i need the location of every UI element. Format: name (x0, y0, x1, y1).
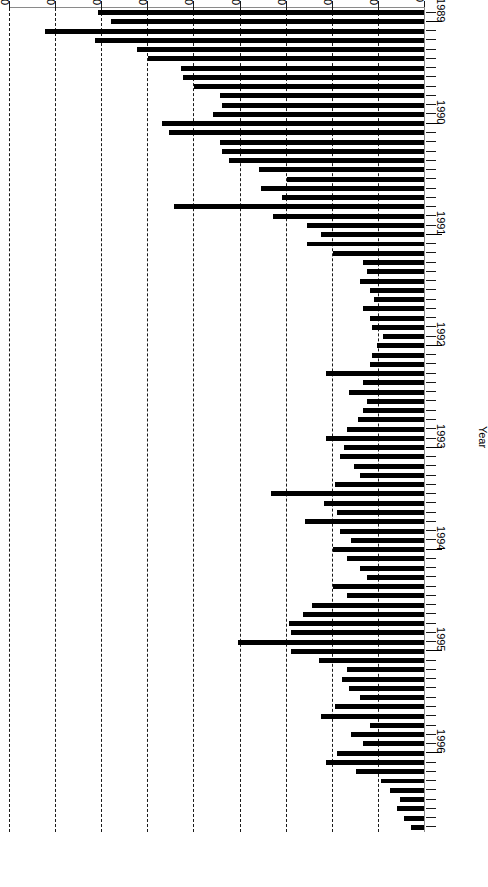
bar (347, 593, 425, 598)
year-label-1992: 1992 (435, 306, 446, 346)
bar (271, 492, 425, 497)
bar (319, 658, 425, 663)
category-tick (426, 289, 436, 290)
gridline-60 (147, 8, 148, 832)
bar (307, 223, 425, 228)
value-tick-label-30: 30 (276, 0, 287, 19)
bar (95, 38, 425, 43)
bar (213, 112, 425, 117)
category-tick (426, 484, 436, 485)
category-tick (426, 188, 436, 189)
category-tick (426, 151, 436, 152)
category-tick (426, 762, 436, 763)
value-tick-label-20: 20 (322, 0, 333, 19)
bar (363, 380, 425, 385)
bar (400, 797, 425, 802)
category-tick (426, 76, 436, 77)
bar (377, 343, 425, 348)
bar (162, 121, 425, 126)
bar (326, 760, 425, 765)
bar (358, 417, 425, 422)
bar (148, 56, 425, 61)
year-label-1989: 1989 (435, 0, 446, 22)
bar (351, 538, 425, 543)
bar (333, 584, 425, 589)
bar (194, 84, 425, 89)
bar (349, 686, 425, 691)
category-tick (426, 160, 436, 161)
chart-rotation-wrapper: 0102030405060708090 % Positive flocks 19… (0, 0, 488, 887)
gridline-90 (9, 8, 10, 832)
bar (349, 390, 425, 395)
year-label-1993: 1993 (435, 408, 446, 448)
category-tick (426, 697, 436, 698)
bar (404, 816, 425, 821)
category-tick (426, 567, 436, 568)
bar (372, 325, 425, 330)
bar (363, 741, 425, 746)
bar (354, 464, 425, 469)
value-tick-label-80: 80 (45, 0, 56, 19)
bar (397, 806, 425, 811)
category-tick (426, 586, 436, 587)
bar (370, 723, 425, 728)
bar (181, 66, 425, 71)
value-tick-label-70: 70 (91, 0, 102, 19)
bar-chart-figure: 0102030405060708090 % Positive flocks 19… (0, 0, 488, 887)
category-tick (426, 299, 436, 300)
bar (370, 288, 425, 293)
bar (372, 353, 425, 358)
value-tick-label-90: 90 (0, 0, 10, 19)
bar (111, 19, 425, 24)
category-tick (426, 456, 436, 457)
bar (340, 529, 425, 534)
bar (411, 825, 425, 830)
category-tick (426, 493, 436, 494)
category-tick (426, 354, 436, 355)
category-tick (426, 771, 436, 772)
bar (220, 93, 425, 98)
bar (381, 779, 425, 784)
bar (222, 103, 425, 108)
category-tick (426, 363, 436, 364)
category-tick (426, 604, 436, 605)
year-label-1996: 1996 (435, 714, 446, 754)
year-label-1990: 1990 (435, 84, 446, 124)
category-tick (426, 132, 436, 133)
bar (137, 47, 425, 52)
category-tick (426, 669, 436, 670)
bar (333, 251, 425, 256)
bar (238, 640, 425, 645)
bar (356, 769, 425, 774)
category-axis-title: Year (477, 426, 488, 448)
bar (367, 399, 425, 404)
category-tick (426, 280, 436, 281)
bar (333, 547, 425, 552)
category-tick (426, 688, 436, 689)
category-tick (426, 141, 436, 142)
bar (335, 482, 425, 487)
bar (303, 612, 425, 617)
category-tick (426, 817, 436, 818)
bar (367, 575, 425, 580)
bar (360, 473, 425, 478)
gridline-70 (101, 8, 102, 832)
bar (45, 29, 425, 34)
category-tick (426, 706, 436, 707)
bar (326, 371, 425, 376)
plot-area (10, 8, 425, 832)
bar (337, 751, 425, 756)
value-tick-label-40: 40 (230, 0, 241, 19)
value-tick-label-60: 60 (137, 0, 148, 19)
bar (229, 158, 425, 163)
bar (363, 306, 425, 311)
category-tick (426, 799, 436, 800)
category-tick (426, 808, 436, 809)
category-tick (426, 660, 436, 661)
bar (307, 242, 425, 247)
bar (289, 621, 425, 626)
year-label-1995: 1995 (435, 612, 446, 652)
category-tick (426, 262, 436, 263)
bar (347, 427, 425, 432)
category-tick (426, 780, 436, 781)
